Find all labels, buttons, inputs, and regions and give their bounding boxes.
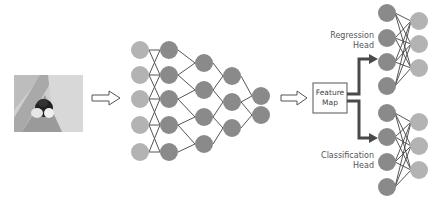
head-input-node [378,77,396,95]
regression-label-line2: Head [318,41,374,51]
arrow-icon [281,91,307,105]
feature-map-label: Feature Map [313,88,347,108]
classification-label-line2: Head [310,161,374,171]
neuron-node [160,90,178,108]
arrow-head-icon [369,54,378,64]
regression-label-line1: Regression [318,31,374,41]
classification-label-line1: Classification [310,151,374,161]
head-output-node [410,161,428,179]
classification-head-label: Classification Head [310,151,374,171]
head-input-node [378,153,396,171]
neuron-node [223,93,241,111]
head-edges [395,13,411,187]
neuron-node [195,54,213,72]
input-image [14,75,83,132]
head-output-node [410,35,428,53]
neuron-node [223,67,241,85]
neuron-node [195,81,213,99]
neuron-node [223,119,241,137]
arrow-icon [92,91,120,105]
head-output-node [410,12,428,30]
head-input-node [378,128,396,146]
neuron-node [160,66,178,84]
backbone-nodes [131,41,270,161]
branch-arrows [347,59,371,138]
neuron-node [252,106,270,124]
head-output-node [410,113,428,131]
neuron-node [131,90,149,108]
neuron-node [252,87,270,105]
head-input-node [378,178,396,196]
neuron-node [160,41,178,59]
detection-diagram: Feature Map Regression Head Classificati… [0,0,447,205]
neuron-node [160,143,178,161]
neuron-node [195,108,213,126]
head-input-node [378,29,396,47]
head-input-node [378,53,396,71]
head-output-node [410,59,428,77]
head-input-node [378,4,396,22]
head-input-node [378,104,396,122]
neuron-node [195,135,213,153]
neuron-node [131,41,149,59]
neuron-node [131,143,149,161]
feature-map-line2: Map [313,98,347,108]
neuron-node [131,66,149,84]
neuron-node [160,116,178,134]
regression-head-label: Regression Head [318,31,374,51]
arrow-head-icon [369,133,378,143]
head-output-node [410,137,428,155]
neuron-node [131,116,149,134]
feature-map-line1: Feature [313,88,347,98]
